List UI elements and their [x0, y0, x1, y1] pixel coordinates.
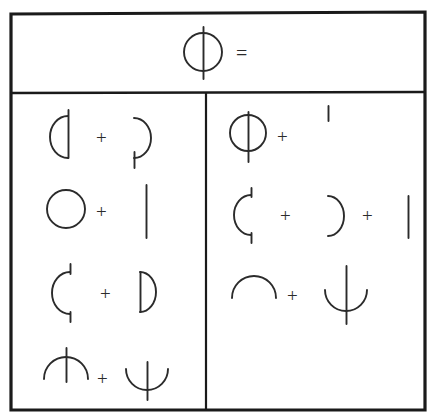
right-row-2-plus-2: + [362, 205, 373, 226]
right-row-1-plus: + [277, 126, 288, 147]
right-row-3-plus: + [287, 285, 298, 306]
header-divider-line [11, 92, 425, 93]
left-row-3-plus: + [100, 283, 111, 304]
symbol-decomposition-figure: = + + [0, 0, 437, 416]
figure-canvas: = + + [0, 0, 437, 416]
left-row-1-plus: + [96, 127, 107, 148]
left-row-4-plus: + [97, 368, 108, 389]
equals-sign: = [236, 42, 247, 64]
right-row-2-plus-1: + [280, 205, 291, 226]
left-row-2-plus: + [96, 201, 107, 222]
